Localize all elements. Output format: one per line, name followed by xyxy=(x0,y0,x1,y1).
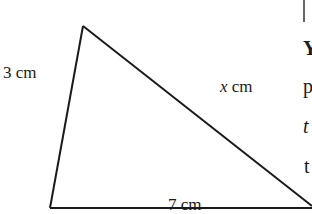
text-fragment-3: t xyxy=(303,116,309,136)
label-hypotenuse: x cm xyxy=(220,78,253,95)
side-left-3cm xyxy=(50,26,83,208)
label-base: 7 cm xyxy=(168,196,202,213)
label-side-left: 3 cm xyxy=(3,64,37,81)
label-hypotenuse-variable: x xyxy=(220,77,228,96)
text-fragment-4: t xyxy=(304,156,310,176)
text-fragment-2: p xyxy=(303,76,312,96)
text-fragment-1: Y xyxy=(303,38,312,58)
triangle-figure xyxy=(0,0,312,214)
side-hypotenuse-x-cm xyxy=(83,26,312,206)
label-hypotenuse-unit: cm xyxy=(228,77,253,96)
triangle-diagram: 3 cm x cm 7 cm Y p t t xyxy=(0,0,312,214)
